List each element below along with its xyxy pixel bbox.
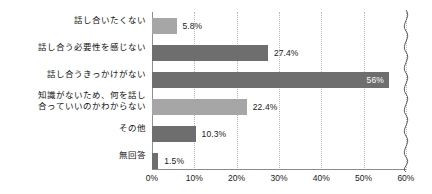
x-axis-line <box>152 169 406 170</box>
bar-0: 5.8% <box>152 18 177 34</box>
category-label-line: 合っていいのかわからない <box>0 101 146 112</box>
gridline-40 <box>321 12 322 170</box>
xtick-label-10: 10% <box>186 173 203 183</box>
category-label-5: 無回答 <box>0 150 146 161</box>
axis-break-wavy-icon <box>396 10 418 172</box>
bar-value-1: 27.4% <box>274 48 299 58</box>
category-label-1: 話し合う必要性を感じない <box>0 42 146 53</box>
category-label-line: 知識がないため、何を話し <box>0 90 146 101</box>
category-label-0: 話し合いたくない <box>0 15 146 26</box>
category-label-line: 話し合う必要性を感じない <box>0 42 146 53</box>
gridline-50 <box>364 12 365 170</box>
bar-value-0: 5.8% <box>183 21 203 31</box>
xtick-label-40: 40% <box>313 173 330 183</box>
bar-value-4: 10.3% <box>202 129 227 139</box>
category-label-3: 知識がないため、何を話し 合っていいのかわからない <box>0 90 146 111</box>
category-label-4: その他 <box>0 123 146 134</box>
xtick-label-0: 0% <box>146 173 158 183</box>
category-label-2: 話し合うきっかけがない <box>0 69 146 80</box>
xtick-label-60: 60% <box>397 173 414 183</box>
bar-4: 10.3% <box>152 126 196 142</box>
xtick-label-30: 30% <box>270 173 287 183</box>
plot-area: 5.8% 27.4% 56% 22.4% 10.3% 1.5% <box>152 12 406 170</box>
bar-3: 22.4% <box>152 99 247 115</box>
category-label-line: その他 <box>0 123 146 134</box>
gridline-20 <box>237 12 238 170</box>
chart-figure: 5.8% 27.4% 56% 22.4% 10.3% 1.5% <box>0 0 432 194</box>
bar-value-2: 56% <box>367 75 384 85</box>
gridline-0 <box>152 12 153 170</box>
bar-2: 56% <box>152 72 389 88</box>
bar-5: 1.5% <box>152 153 158 169</box>
gridline-10 <box>194 12 195 170</box>
category-label-line: 話し合いたくない <box>0 15 146 26</box>
xtick-label-50: 50% <box>355 173 372 183</box>
bar-value-3: 22.4% <box>253 102 278 112</box>
category-label-line: 話し合うきっかけがない <box>0 69 146 80</box>
bar-value-5: 1.5% <box>164 156 184 166</box>
gridline-30 <box>279 12 280 170</box>
bar-1: 27.4% <box>152 45 268 61</box>
category-label-line: 無回答 <box>0 150 146 161</box>
xtick-label-20: 20% <box>228 173 245 183</box>
